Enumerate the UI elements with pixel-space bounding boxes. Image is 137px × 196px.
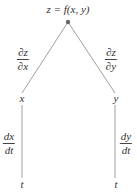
node-y: y bbox=[114, 93, 119, 104]
root-function-label: z = f(x, y) bbox=[47, 4, 90, 15]
root-node-dot bbox=[66, 20, 70, 24]
node-x: x bbox=[20, 93, 25, 104]
node-t-right: t bbox=[114, 179, 117, 190]
partial-z-x-label: ∂z ∂x bbox=[17, 47, 29, 72]
partial-z-y-label: ∂z ∂y bbox=[105, 47, 117, 72]
dy-dt-label: dy dt bbox=[120, 131, 132, 156]
dx-dt-label: dx dt bbox=[3, 131, 15, 156]
node-t-left: t bbox=[20, 179, 23, 190]
chain-rule-tree-diagram: z = f(x, y) ∂z ∂x ∂z ∂y x y dx dt dy dt … bbox=[0, 0, 137, 196]
